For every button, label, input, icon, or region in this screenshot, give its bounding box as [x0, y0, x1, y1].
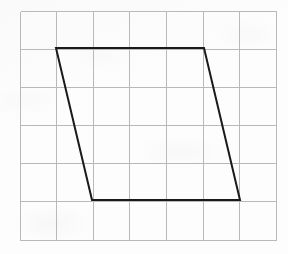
- parallelogram-shape: [56, 48, 240, 200]
- geometry-figure: [0, 0, 288, 254]
- grid-lines: [21, 12, 277, 241]
- figure-canvas: [0, 0, 288, 254]
